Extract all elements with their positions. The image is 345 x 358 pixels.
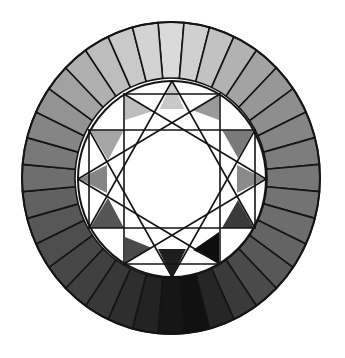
color-wheel-canvas <box>0 0 345 358</box>
color-wheel-figure: Grayscale color wheel <box>0 0 345 358</box>
